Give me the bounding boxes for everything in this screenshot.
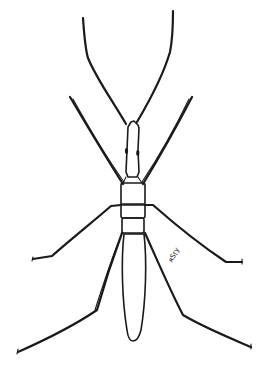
head — [123, 121, 142, 183]
left-eye — [125, 148, 128, 154]
antennae — [83, 11, 173, 124]
right-middle-leg — [145, 205, 242, 262]
mesothorax — [121, 204, 145, 218]
right-front-leg-inner — [142, 99, 189, 182]
head-outline — [126, 121, 139, 177]
left-hind-foot — [17, 349, 18, 354]
left-middle-foot — [32, 257, 33, 261]
illustration-canvas: ᴙSɼy — [0, 0, 267, 371]
abdomen-outline — [122, 234, 145, 341]
left-front-leg-inner — [73, 99, 124, 182]
left-middle-leg — [33, 205, 121, 259]
thorax — [121, 183, 145, 233]
left-antenna — [83, 18, 126, 124]
front-legs — [70, 97, 192, 184]
right-antenna — [137, 11, 173, 122]
left-hind-leg — [18, 233, 122, 352]
right-hind-leg — [145, 233, 251, 347]
abdomen — [122, 234, 145, 341]
right-eye — [136, 150, 139, 156]
handwritten-label-text: ᴙSɼy — [167, 246, 181, 264]
prothorax — [121, 183, 145, 205]
hind-legs — [17, 233, 251, 354]
handwritten-label: ᴙSɼy — [167, 246, 181, 264]
neck — [123, 177, 142, 183]
insect-drawing: ᴙSɼy — [0, 0, 267, 371]
metathorax — [122, 218, 144, 233]
